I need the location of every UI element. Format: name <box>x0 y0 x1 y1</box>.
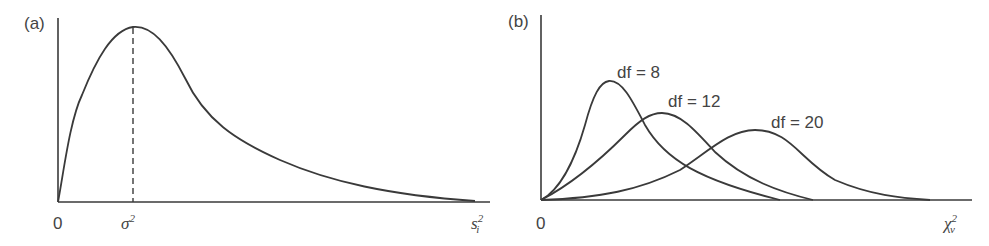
panel-b-label: (b) <box>508 12 529 32</box>
panel-b-plot <box>0 0 989 246</box>
panel-b-x-axis-label: χ2ν <box>944 212 955 235</box>
legend-df-20: df = 20 <box>771 113 823 133</box>
panel-b-origin-label: 0 <box>536 214 545 234</box>
legend-df-8: df = 8 <box>617 63 660 83</box>
curve-df-20 <box>541 130 930 200</box>
legend-df-12: df = 12 <box>668 92 720 112</box>
curve-df-8 <box>541 81 780 200</box>
panel-b: (b) df = 8 df = 12 df = 20 0 χ2ν <box>0 0 989 246</box>
